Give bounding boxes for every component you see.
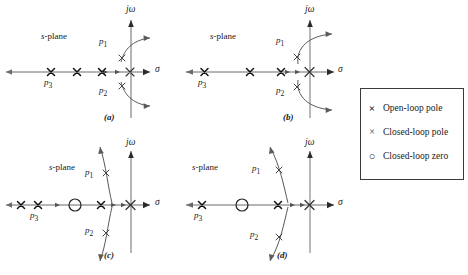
panel-c-real-axis-label: σ [155,197,160,207]
panel-c: s-plane jω σ p1 p2 p3 (c) [0,137,180,267]
root-locus-figure: s-plane jω σ p1 p2 p3 (a) [0,0,468,275]
panel-c-p3-label: p3 [30,210,38,223]
panel-b-p1-label: p1 [276,35,284,48]
panel-a-plane-label: s-plane [41,31,67,41]
panel-c-p1-label: p1 [85,167,93,180]
panel-d-imag-axis-label: jω [305,137,314,147]
panel-b-p2-label: p2 [276,85,284,98]
legend-box: × Open-loop pole × Closed-loop pole ○ Cl… [360,88,464,180]
panel-b-plot [186,0,366,125]
panel-b: s-plane jω σ p1 p2 p3 (b) [186,0,366,125]
panel-d: s-plane jω σ p1 p2 p3 (d) [186,137,366,267]
panel-b-imag-axis-label: jω [305,4,314,14]
panel-b-real-axis-label: σ [338,64,343,74]
legend-label-closed-loop-pole: Closed-loop pole [383,127,448,137]
panel-a-p1-label: p1 [99,36,107,49]
panel-a: s-plane jω σ p1 p2 p3 (a) [0,0,180,125]
panel-a-imag-axis-label: jω [126,4,135,14]
panel-b-plane-label: s-plane [210,31,236,41]
closed-loop-zero-icon: ○ [361,151,383,162]
open-loop-pole-icon: × [361,103,383,114]
panel-d-plane-label: s-plane [192,162,218,172]
panel-a-real-axis-label: σ [155,64,160,74]
closed-loop-pole-icon: × [361,127,383,137]
panel-c-plot [0,137,180,267]
panel-d-p3-label: p3 [194,210,202,223]
panel-d-p1-label: p1 [252,163,260,176]
panel-a-plot [0,0,180,125]
panel-a-caption: (a) [104,112,115,122]
panel-d-p2-label: p2 [250,229,258,242]
legend-item-closed-loop-zero: ○ Closed-loop zero [361,144,463,168]
panel-b-p3-label: p3 [198,77,206,90]
legend-item-open-loop-pole: × Open-loop pole [361,96,463,120]
legend-item-closed-loop-pole: × Closed-loop pole [361,120,463,144]
panel-a-p3-label: p3 [44,77,52,90]
panel-c-imag-axis-label: jω [126,137,135,147]
panel-c-caption: (c) [104,250,114,260]
panel-c-p2-label: p2 [85,225,93,238]
panel-c-plane-label: s-plane [49,162,75,172]
legend-label-open-loop-pole: Open-loop pole [383,103,442,113]
legend-label-closed-loop-zero: Closed-loop zero [383,151,448,161]
panel-b-caption: (b) [283,112,294,122]
panel-d-caption: (d) [277,250,288,260]
panel-d-real-axis-label: σ [338,197,343,207]
panel-a-p2-label: p2 [99,85,107,98]
